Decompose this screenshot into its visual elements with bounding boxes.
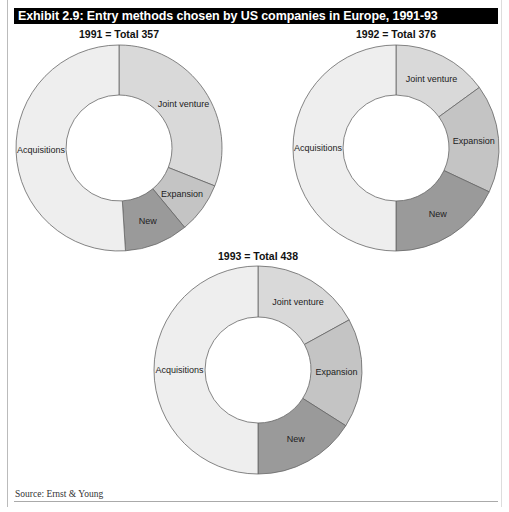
source-note: Source: Ernst & Young [15, 489, 103, 499]
source-divider [14, 501, 498, 502]
segment-label: Joint venture [272, 297, 324, 307]
donut-chart-1993: Joint ventureExpansionNewAcquisitions [0, 0, 509, 512]
segment-label: New [287, 434, 306, 444]
segment-label: Acquisitions [155, 365, 204, 375]
segment-label: Expansion [315, 367, 357, 377]
